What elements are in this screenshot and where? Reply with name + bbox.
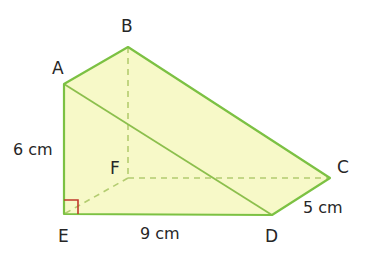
vertex-label-f: F bbox=[110, 160, 120, 177]
dimension-label-depth: 5 cm bbox=[303, 200, 343, 216]
vertex-label-a: A bbox=[52, 60, 64, 77]
dimension-label-height: 6 cm bbox=[13, 142, 53, 158]
vertex-label-b: B bbox=[121, 18, 133, 35]
prism-body-fill bbox=[64, 47, 330, 215]
vertex-label-d: D bbox=[265, 228, 278, 245]
vertex-label-c: C bbox=[337, 159, 349, 176]
dimension-label-length: 9 cm bbox=[140, 226, 180, 242]
geometry-diagram: A B C D E F 6 cm 9 cm 5 cm bbox=[0, 0, 375, 255]
vertex-label-e: E bbox=[58, 228, 69, 245]
